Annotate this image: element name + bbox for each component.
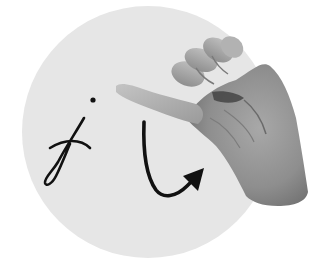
sign-illustration: j — [0, 0, 330, 270]
drawing-layer — [0, 0, 330, 270]
